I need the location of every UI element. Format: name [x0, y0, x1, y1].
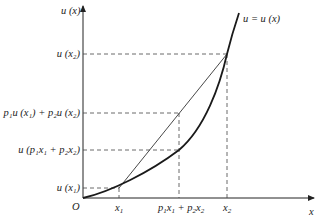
ytick-ux2: u (x₂) [57, 48, 81, 60]
curve-label: u = u (x) [243, 13, 281, 25]
x-axis-label: x [308, 206, 314, 217]
ytick-ux1: u (x₁) [57, 182, 81, 194]
chord-line [119, 54, 227, 188]
xtick-x2: x2 [222, 202, 232, 215]
utility-curve [83, 13, 239, 198]
origin-label: O [72, 201, 80, 212]
y-axis-label: u (x) [61, 5, 81, 17]
ytick-umix: u (p₁x₁ + p₂x₂) [18, 144, 80, 156]
guide-lines [83, 54, 227, 198]
ytick-chord: p₁u (x₁) + p₂u (x₂) [3, 107, 81, 119]
xtick-mix: p1x1 + p2x2 [157, 202, 205, 215]
xtick-x1: x1 [114, 202, 123, 215]
utility-diagram: u (x) x O u = u (x) u (x₂) p₁u (x₁) + p₂… [0, 0, 318, 221]
